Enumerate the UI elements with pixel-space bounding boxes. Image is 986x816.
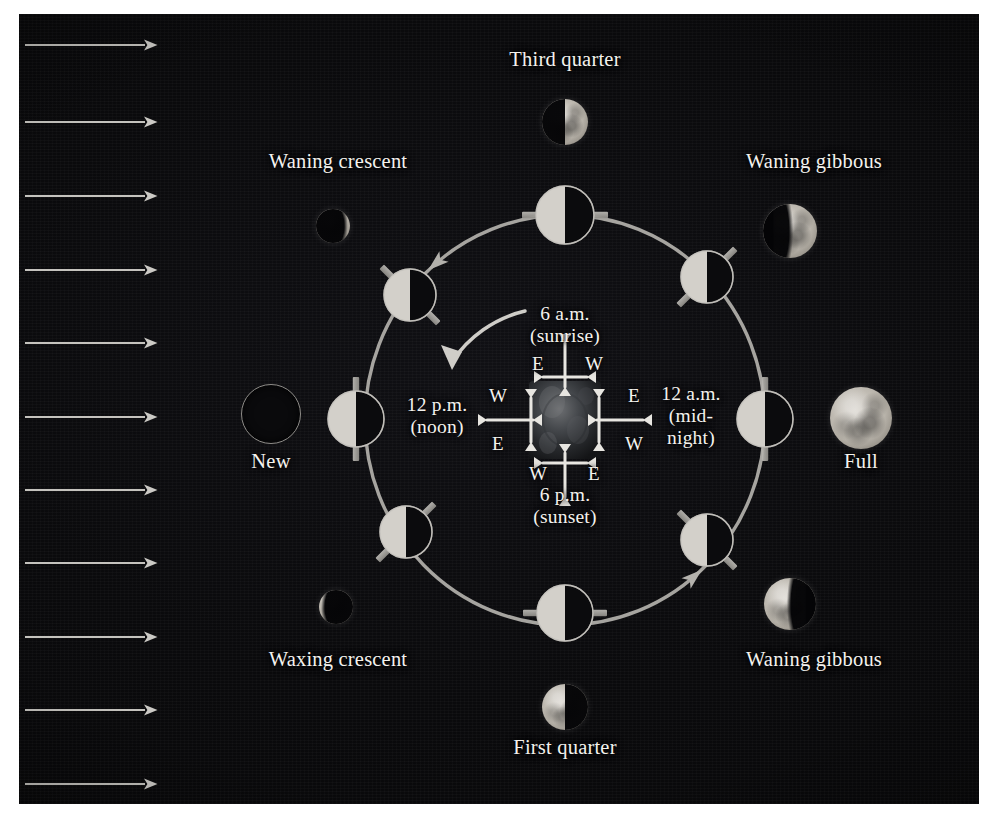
phase-full-disc [830,387,892,449]
orbit-moon-left [328,377,384,461]
phase-new-disc [241,384,301,444]
moon-phase-diagram: Third quarterWaning gibbousFullWaning gi… [0,0,986,816]
moon-surface [316,209,350,243]
phase-waxing-crescent-disc [319,590,353,624]
moon-surface [542,99,588,145]
compass-arrow-bottom-head-2 [559,497,571,506]
moon-surface [830,387,892,449]
phase-waning-gibbous-lower-disc [764,578,816,630]
orbit-moon-right [737,377,793,461]
compass-arrow-right-head-2 [643,414,652,426]
compass-arrow-top-head-1 [559,334,571,343]
orbit-moon-bottom-right [676,509,737,570]
moon-surface [763,204,817,258]
orbit-moon-top-left [379,264,440,325]
earth-group [478,334,652,506]
phase-waning-crescent-disc [316,209,350,243]
orbit-moon-bottom [523,585,607,641]
phase-first-quarter-disc [542,684,588,730]
moon-surface [319,590,353,624]
sunlight-rays-group [25,45,145,784]
orbit-moon-lit-side [537,585,565,641]
compass-arrow-left-head-1 [478,414,487,426]
earth-rotation-arrow [441,311,525,370]
moon-surface [542,684,588,730]
phase-third-quarter-disc [542,99,588,145]
moon-surface [764,578,816,630]
phase-waning-gibbous-upper-disc [763,204,817,258]
orbit-moon-lit-side [328,391,356,447]
orbit-moon-top [522,186,608,244]
orbit-moon-lit-side [737,391,765,447]
orbit-moon-lit-side [536,186,565,244]
